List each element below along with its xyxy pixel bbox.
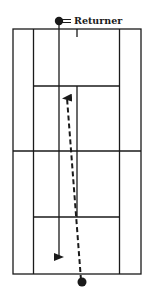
returner-marker: Returner xyxy=(55,15,123,26)
returner-label: Returner xyxy=(74,15,123,26)
serve-path-dashed-arrow xyxy=(67,98,81,280)
tennis-court-diagram: Returner xyxy=(0,0,147,294)
server-dot xyxy=(78,278,87,287)
